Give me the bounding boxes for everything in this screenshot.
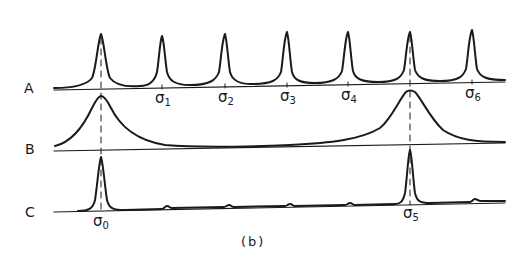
sigma-0-label: σ0 [93, 214, 109, 231]
row-c-curve [78, 150, 505, 211]
row-a-curve [54, 30, 505, 88]
row-b-baseline [54, 143, 505, 151]
sigma-4-label: σ4 [341, 88, 357, 105]
figure-caption: (b) [241, 234, 265, 249]
sigma-6-label: σ6 [465, 86, 481, 103]
row-label-a: A [24, 80, 34, 96]
row-label-c: C [25, 204, 35, 220]
spectra-diagram [0, 0, 527, 267]
sigma-5-label: σ5 [403, 206, 419, 223]
sigma-2-label: σ2 [218, 90, 234, 107]
sigma-1-label: σ1 [155, 91, 171, 108]
row-label-b: B [25, 141, 35, 157]
sigma-3-label: σ3 [280, 89, 296, 106]
